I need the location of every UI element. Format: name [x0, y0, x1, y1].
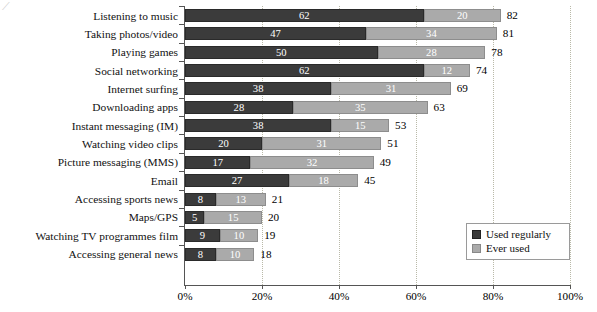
bar-total-label: 20 [262, 211, 279, 224]
bar-total-label: 21 [266, 193, 283, 206]
bar-value-used-regularly: 50 [185, 46, 378, 59]
bar-total-label: 82 [501, 9, 518, 22]
y-tick-4 [179, 79, 185, 80]
stacked-bar-chart: ⟋ Listening to musicTaking photos/videoP… [0, 0, 597, 312]
bar-value-used-regularly: 28 [185, 101, 293, 114]
bar-value-ever-used: 10 [216, 248, 255, 261]
x-tick-label-80%: 80% [483, 289, 504, 303]
bar-total-label: 51 [381, 137, 398, 150]
bar-value-ever-used: 20 [424, 9, 501, 22]
bar-value-ever-used: 32 [250, 156, 373, 169]
y-tick-2 [179, 43, 185, 44]
y-tick-13 [179, 245, 185, 246]
bar-value-ever-used: 13 [216, 193, 266, 206]
bar-total-label: 74 [470, 64, 487, 77]
bar-value-used-regularly: 38 [185, 119, 331, 132]
legend-item-used-regularly: Used regularly [472, 227, 564, 241]
bar-value-ever-used: 31 [262, 137, 381, 150]
bar-total-label: 81 [497, 27, 514, 40]
bar-value-used-regularly: 47 [185, 27, 366, 40]
bar-value-used-regularly: 8 [185, 193, 216, 206]
bar-total-label: 53 [389, 119, 406, 132]
y-tick-3 [179, 61, 185, 62]
bar-value-ever-used: 10 [220, 229, 259, 242]
bar-total-label: 18 [254, 248, 271, 261]
legend-label-used-regularly: Used regularly [486, 228, 551, 241]
y-tick-5 [179, 98, 185, 99]
y-tick-12 [179, 226, 185, 227]
bar-row: 621274 [0, 64, 597, 77]
bar-row: 173249 [0, 156, 597, 169]
bar-value-used-regularly: 17 [185, 156, 250, 169]
bar-value-used-regularly: 27 [185, 174, 289, 187]
bar-value-ever-used: 15 [331, 119, 389, 132]
y-tick-6 [179, 116, 185, 117]
bar-row: 473481 [0, 27, 597, 40]
x-axis-line [184, 285, 571, 286]
legend-item-ever-used: Ever used [472, 241, 564, 255]
y-tick-1 [179, 24, 185, 25]
bar-total-label: 69 [451, 82, 468, 95]
bar-total-label: 49 [374, 156, 391, 169]
bar-value-ever-used: 28 [378, 46, 486, 59]
bar-value-used-regularly: 5 [185, 211, 204, 224]
bar-value-used-regularly: 62 [185, 9, 424, 22]
bar-value-ever-used: 34 [366, 27, 497, 40]
bar-total-label: 63 [428, 101, 445, 114]
x-tick-label-40%: 40% [329, 289, 350, 303]
y-tick-11 [179, 208, 185, 209]
bar-row: 81321 [0, 193, 597, 206]
bar-value-used-regularly: 8 [185, 248, 216, 261]
bar-total-label: 78 [485, 46, 502, 59]
legend-label-ever-used: Ever used [486, 242, 530, 255]
x-tick-label-20%: 20% [252, 289, 273, 303]
bar-row: 502878 [0, 46, 597, 59]
bar-row: 283563 [0, 101, 597, 114]
bar-row: 383169 [0, 82, 597, 95]
bar-row: 271845 [0, 174, 597, 187]
bar-value-used-regularly: 62 [185, 64, 424, 77]
bar-value-ever-used: 31 [331, 82, 450, 95]
legend-swatch-used-regularly [472, 230, 481, 239]
y-tick-9 [179, 171, 185, 172]
y-tick-10 [179, 190, 185, 191]
bar-row: 203151 [0, 137, 597, 150]
legend-swatch-ever-used [472, 244, 481, 253]
bar-value-ever-used: 18 [289, 174, 358, 187]
bar-total-label: 45 [358, 174, 375, 187]
bar-row: 622082 [0, 9, 597, 22]
bar-value-ever-used: 12 [424, 64, 470, 77]
x-tick-label-100%: 100% [557, 289, 583, 303]
bar-row: 381553 [0, 119, 597, 132]
y-tick-8 [179, 153, 185, 154]
bar-value-used-regularly: 38 [185, 82, 331, 95]
y-tick-7 [179, 134, 185, 135]
x-tick-label-0%: 0% [178, 289, 193, 303]
bar-value-ever-used: 35 [293, 101, 428, 114]
bar-value-ever-used: 15 [204, 211, 262, 224]
bar-value-used-regularly: 20 [185, 137, 262, 150]
y-tick-0 [179, 6, 185, 7]
chart-legend: Used regularly Ever used [466, 223, 570, 260]
bar-value-used-regularly: 9 [185, 229, 220, 242]
bar-row: 51520 [0, 211, 597, 224]
bar-total-label: 19 [258, 229, 275, 242]
x-tick-label-60%: 60% [406, 289, 427, 303]
